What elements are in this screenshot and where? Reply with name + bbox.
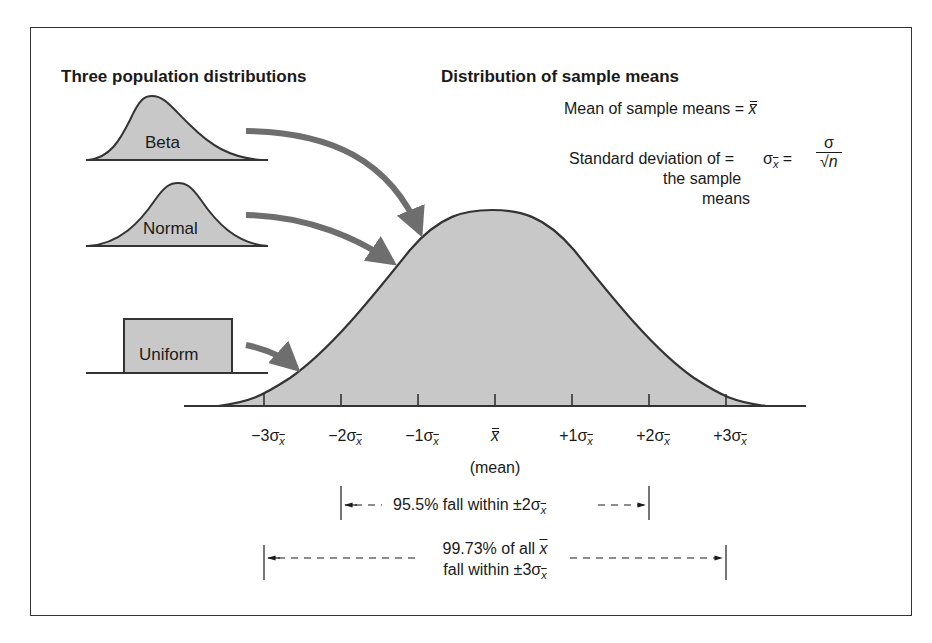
mean-formula-label: Mean of sample means = [564,100,744,117]
tick-label-mean: x [491,427,499,445]
fraction-denominator: √n [816,153,842,171]
equals-sign: = [783,150,792,167]
three-sigma-label-line1: 99.73% of all x [424,540,566,558]
tick-label-minus3: −3σx [251,427,285,445]
tick-label-minus2: −2σx [328,427,362,445]
sd-symbol: σx = [763,150,792,168]
uniform-arrow-icon [246,345,296,368]
fraction-numerator: σ [816,134,842,153]
sd-fraction: σ √n [816,134,842,171]
tick-label-plus2: +2σx [636,427,670,445]
tick-label-minus1: −1σx [405,427,439,445]
populations-heading: Three population distributions [61,67,307,87]
sampling-heading: Distribution of sample means [441,67,679,87]
tick-label-plus3: +3σx [713,427,747,445]
uniform-label: Uniform [139,345,199,365]
normal-label: Normal [143,219,198,239]
normal-arrow-icon [246,215,392,262]
sampling-distribution-curve [184,210,806,406]
beta-label: Beta [145,133,180,153]
grand-mean-symbol: x [749,100,757,118]
sd-label-line3: means [702,190,750,208]
two-sigma-label: 95.5% fall within ±2σx [393,496,546,514]
sigma-subscript: x [773,158,779,170]
sigma-symbol: σ [763,150,773,167]
sd-formula-label: Standard deviation of = [569,150,734,168]
three-sigma-label-line2: fall within ±3σx [424,561,566,579]
sd-label-line2: the sample [663,170,741,188]
tick-label-plus1: +1σx [559,427,593,445]
mean-caption: (mean) [470,459,521,477]
mean-formula: Mean of sample means = x [564,100,757,118]
